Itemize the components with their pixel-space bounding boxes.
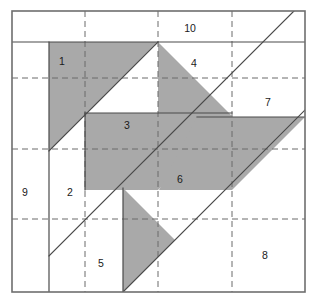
piece-label-5: 5 bbox=[98, 257, 104, 269]
piece-label-3: 3 bbox=[124, 119, 130, 131]
piece-label-10: 10 bbox=[184, 22, 196, 34]
dissection-figure: 12345678910 bbox=[0, 0, 313, 305]
piece-label-7: 7 bbox=[265, 96, 271, 108]
piece-label-9: 9 bbox=[22, 186, 28, 198]
piece-label-8: 8 bbox=[262, 249, 268, 261]
piece-label-2: 2 bbox=[67, 186, 73, 198]
piece-label-6: 6 bbox=[177, 173, 183, 185]
piece-label-1: 1 bbox=[59, 55, 65, 67]
figure-canvas: 12345678910 bbox=[0, 0, 313, 305]
piece-label-4: 4 bbox=[191, 57, 197, 69]
